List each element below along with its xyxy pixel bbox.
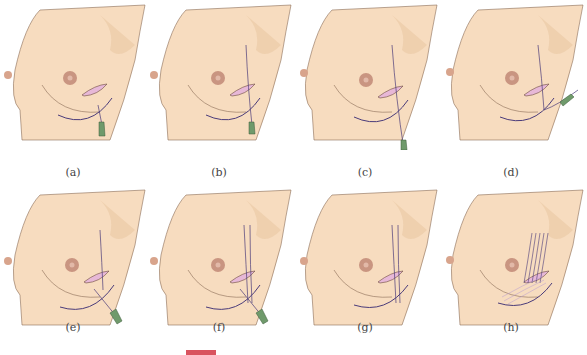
panel-d: (d) [438, 0, 584, 178]
caption-e: (e) [0, 321, 146, 334]
panel-f: (f) [146, 185, 292, 355]
illustration-e [0, 185, 146, 335]
caption-g: (g) [292, 321, 438, 334]
panel-a: (a) [0, 0, 146, 178]
panel-h: (h) [438, 185, 584, 355]
footer-bar [186, 350, 216, 355]
caption-a: (a) [0, 166, 146, 179]
illustration-c [292, 0, 438, 150]
illustration-h [438, 185, 584, 335]
panel-e: (e) [0, 185, 146, 355]
illustration-d [438, 0, 584, 150]
caption-h: (h) [438, 321, 584, 334]
illustration-f [146, 185, 292, 335]
illustration-g [292, 185, 438, 335]
caption-d: (d) [438, 166, 584, 179]
panel-g: (g) [292, 185, 438, 355]
illustration-b [146, 0, 292, 150]
caption-f: (f) [146, 321, 292, 334]
panel-c: (c) [292, 0, 438, 178]
caption-c: (c) [292, 166, 438, 179]
caption-b: (b) [146, 166, 292, 179]
illustration-a [0, 0, 146, 150]
panel-b: (b) [146, 0, 292, 178]
